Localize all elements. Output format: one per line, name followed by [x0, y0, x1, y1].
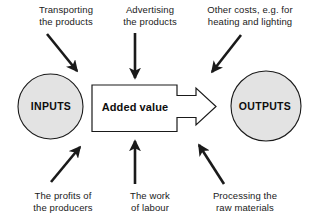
arrow-up-right-icon — [51, 147, 80, 182]
caption-other-costs: Other costs, e.g. for heating and lighti… — [186, 4, 314, 27]
arrow-down-left-icon — [212, 35, 241, 72]
caption-processing-raw-materials: Processing the raw materials — [186, 190, 304, 213]
caption-transporting-the-products: Transporting the products — [18, 4, 114, 27]
inputs-label: INPUTS — [18, 100, 84, 112]
caption-work-of-labour: The work of labour — [110, 190, 190, 213]
arrow-down-right-icon — [47, 34, 77, 71]
caption-advertising-the-products: Advertising the products — [108, 4, 192, 27]
outputs-label: OUTPUTS — [229, 100, 301, 112]
added-value-diagram: Transporting the products Advertising th… — [0, 0, 321, 223]
added-value-label: Added value — [92, 101, 178, 113]
arrow-up-left-icon — [199, 145, 224, 184]
caption-profits-of-the-producers: The profits of the producers — [12, 190, 114, 213]
